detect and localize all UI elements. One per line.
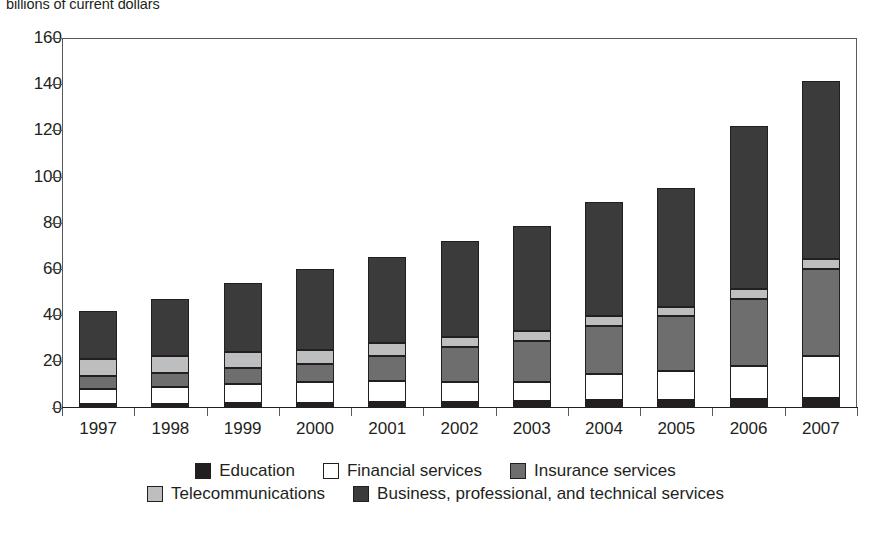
x-axis-tick-label: 1998 bbox=[130, 419, 210, 439]
x-axis-tick-mark bbox=[640, 408, 641, 416]
bar-segment-insurance-services bbox=[730, 299, 768, 366]
legend-swatch-icon bbox=[510, 463, 526, 479]
legend-label: Business, professional, and technical se… bbox=[377, 485, 724, 503]
bar-segment-business-professional-and-technical-services bbox=[296, 269, 334, 350]
y-axis-tick-mark bbox=[52, 84, 62, 85]
bar-segment-telecommunications bbox=[368, 343, 406, 356]
x-axis-tick-mark bbox=[785, 408, 786, 416]
x-axis-tick-label: 1999 bbox=[203, 419, 283, 439]
x-axis-tick-label: 2005 bbox=[636, 419, 716, 439]
bar-segment-insurance-services bbox=[585, 326, 623, 374]
stacked-bar bbox=[513, 38, 551, 408]
y-axis-tick-mark bbox=[52, 315, 62, 316]
legend-label: Financial services bbox=[347, 462, 482, 480]
x-axis-tick-mark bbox=[712, 408, 713, 416]
bar-segment-business-professional-and-technical-services bbox=[79, 311, 117, 359]
legend-row: TelecommunicationsBusiness, professional… bbox=[0, 485, 871, 503]
bar-segment-financial-services bbox=[802, 356, 840, 398]
y-axis: 020406080100120140160 bbox=[0, 0, 62, 542]
bar-segment-business-professional-and-technical-services bbox=[441, 241, 479, 337]
stacked-bar bbox=[151, 38, 189, 408]
bar-segment-telecommunications bbox=[79, 359, 117, 376]
bar-segment-financial-services bbox=[441, 382, 479, 402]
bar-segment-insurance-services bbox=[368, 356, 406, 381]
x-axis-tick-mark bbox=[857, 408, 858, 416]
x-axis-line bbox=[62, 407, 858, 408]
stacked-bar bbox=[296, 38, 334, 408]
legend-swatch-icon bbox=[353, 486, 369, 502]
x-axis-tick-mark bbox=[62, 408, 63, 416]
bar-segment-insurance-services bbox=[657, 316, 695, 371]
legend-item-education[interactable]: Education bbox=[195, 462, 295, 480]
bar-segment-insurance-services bbox=[151, 373, 189, 387]
bar-segment-insurance-services bbox=[802, 269, 840, 356]
x-axis-tick-label: 2004 bbox=[564, 419, 644, 439]
x-axis-tick-label: 1997 bbox=[58, 419, 138, 439]
y-axis-tick-mark bbox=[52, 177, 62, 178]
bar-segment-insurance-services bbox=[224, 368, 262, 384]
stacked-bar bbox=[441, 38, 479, 408]
x-axis-tick-label: 2003 bbox=[492, 419, 572, 439]
x-axis-tick-label: 2001 bbox=[347, 419, 427, 439]
legend-swatch-icon bbox=[323, 463, 339, 479]
x-axis-tick-mark bbox=[207, 408, 208, 416]
bar-segment-business-professional-and-technical-services bbox=[657, 188, 695, 307]
legend-item-financial-services[interactable]: Financial services bbox=[323, 462, 482, 480]
bar-segment-telecommunications bbox=[657, 307, 695, 316]
chart-root: billions of current dollars 020406080100… bbox=[0, 0, 871, 542]
stacked-bar bbox=[368, 38, 406, 408]
x-axis-tick-label: 2006 bbox=[709, 419, 789, 439]
stacked-bar bbox=[802, 38, 840, 408]
bar-segment-financial-services bbox=[730, 366, 768, 399]
bar-segment-financial-services bbox=[657, 371, 695, 399]
y-axis-tick-mark bbox=[52, 269, 62, 270]
legend-label: Telecommunications bbox=[171, 485, 325, 503]
bar-segment-business-professional-and-technical-services bbox=[585, 202, 623, 316]
legend-label: Insurance services bbox=[534, 462, 676, 480]
stacked-bar bbox=[224, 38, 262, 408]
bar-segment-financial-services bbox=[513, 382, 551, 401]
bar-segment-business-professional-and-technical-services bbox=[224, 283, 262, 352]
bar-segment-insurance-services bbox=[441, 347, 479, 382]
bar-segment-insurance-services bbox=[296, 364, 334, 382]
bar-segment-telecommunications bbox=[802, 259, 840, 269]
legend-swatch-icon bbox=[195, 463, 211, 479]
bar-segment-telecommunications bbox=[513, 331, 551, 340]
bar-segment-telecommunications bbox=[730, 289, 768, 299]
x-axis-tick-mark bbox=[351, 408, 352, 416]
bar-segment-financial-services bbox=[585, 374, 623, 400]
x-axis-tick-mark bbox=[496, 408, 497, 416]
stacked-bar bbox=[79, 38, 117, 408]
stacked-bar bbox=[730, 38, 768, 408]
bar-segment-telecommunications bbox=[441, 337, 479, 347]
stacked-bar bbox=[585, 38, 623, 408]
legend-swatch-icon bbox=[147, 486, 163, 502]
x-axis-tick-label: 2002 bbox=[420, 419, 500, 439]
legend-item-telecommunications[interactable]: Telecommunications bbox=[147, 485, 325, 503]
bar-segment-business-professional-and-technical-services bbox=[513, 226, 551, 331]
bar-segment-business-professional-and-technical-services bbox=[368, 257, 406, 342]
bar-segment-business-professional-and-technical-services bbox=[730, 126, 768, 289]
legend-label: Education bbox=[219, 462, 295, 480]
x-axis-tick-mark bbox=[423, 408, 424, 416]
stacked-bar bbox=[657, 38, 695, 408]
bar-segment-financial-services bbox=[151, 387, 189, 404]
bar-segment-financial-services bbox=[368, 381, 406, 402]
bar-segment-financial-services bbox=[224, 384, 262, 403]
bar-segment-telecommunications bbox=[151, 356, 189, 373]
y-axis-tick-mark bbox=[52, 223, 62, 224]
legend-item-business-professional-technical-services[interactable]: Business, professional, and technical se… bbox=[353, 485, 724, 503]
bar-segment-telecommunications bbox=[296, 350, 334, 364]
legend-item-insurance-services[interactable]: Insurance services bbox=[510, 462, 676, 480]
y-axis-tick-mark bbox=[52, 38, 62, 39]
legend-row: EducationFinancial servicesInsurance ser… bbox=[0, 462, 871, 480]
x-axis-tick-mark bbox=[568, 408, 569, 416]
bar-segment-financial-services bbox=[79, 389, 117, 404]
bar-segment-insurance-services bbox=[513, 341, 551, 383]
chart-legend: EducationFinancial servicesInsurance ser… bbox=[0, 462, 871, 508]
bar-segment-business-professional-and-technical-services bbox=[802, 81, 840, 259]
x-axis-tick-mark bbox=[134, 408, 135, 416]
bar-segment-telecommunications bbox=[585, 316, 623, 325]
bar-segment-telecommunications bbox=[224, 352, 262, 368]
bar-segment-financial-services bbox=[296, 382, 334, 403]
